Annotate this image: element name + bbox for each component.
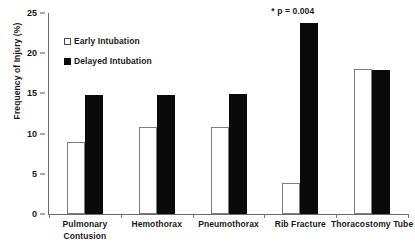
legend-item-label: Early Intubation [74,36,140,46]
x-axis-category-label-line: Thoracostomy Tube [329,219,415,231]
y-axis-tick-label: 0 [3,209,37,219]
p-value-annotation: * p = 0.004 [271,6,314,16]
legend-item: Delayed Intubation [64,56,152,66]
chart-legend: Early IntubationDelayed Intubation [64,36,152,76]
y-axis-tick-mark [40,93,45,94]
x-axis-tick-mark [193,214,194,218]
bar [354,69,372,214]
x-axis-category-label: Thoracostomy Tube [329,219,415,231]
y-axis-tick-label: 10 [3,129,37,139]
y-axis-tick-mark [40,133,45,134]
x-axis-tick-mark [49,214,50,218]
bar [300,23,318,214]
bar [157,95,175,214]
open-square-icon [64,38,71,45]
y-axis-tick-mark [40,173,45,174]
bar [67,142,85,214]
y-axis-tick-label: 20 [3,48,37,58]
x-axis-line [48,214,408,215]
bar [139,127,157,214]
bar-group [354,13,390,214]
x-axis-tick-mark [336,214,337,218]
y-axis-tick-labels: 0510152025 [0,0,48,248]
bar-group [282,13,318,214]
y-axis-tick-mark [40,214,45,215]
bar [211,127,229,214]
x-axis-category-label-line: Contusion [42,231,128,243]
x-axis-tick-mark [408,214,409,218]
y-axis-tick-label: 5 [3,169,37,179]
bar-group [211,13,247,214]
y-axis-tick-label: 15 [3,88,37,98]
bar [85,95,103,214]
x-axis-category-labels: PulmonaryContusionHemothoraxPneumothorax… [49,219,408,248]
bar [229,94,247,214]
x-axis-tick-mark [121,214,122,218]
bar [282,183,300,214]
y-axis-tick-mark [40,13,45,14]
bar-chart: Frequency of Injury (%) 0510152025 Early… [0,0,415,248]
legend-item: Early Intubation [64,36,152,46]
bar [372,70,390,214]
x-axis-tick-mark [264,214,265,218]
filled-square-icon [64,58,71,65]
y-axis-tick-label: 25 [3,8,37,18]
legend-item-label: Delayed Intubation [74,56,152,66]
y-axis-tick-mark [40,53,45,54]
